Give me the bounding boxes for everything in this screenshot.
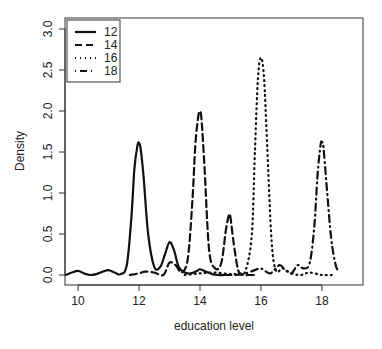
y-tick-label: 3.0 [41,20,55,37]
series-line-12 [66,142,231,275]
x-tick-label: 14 [193,294,207,308]
legend-label: 14 [104,38,118,52]
x-axis-label: education level [174,319,254,333]
y-tick-label: 2.5 [41,61,55,78]
legend-label: 12 [104,25,118,39]
x-tick-label: 12 [132,294,146,308]
series-line-14 [130,111,255,275]
legend-label: 16 [104,51,118,65]
y-tick-label: 2.0 [41,102,55,119]
y-tick-label: 0.0 [41,266,55,283]
x-tick-label: 18 [315,294,329,308]
x-tick-label: 10 [71,294,85,308]
series-line-18 [231,141,339,275]
x-tick-label: 16 [254,294,268,308]
density-chart: 1012141618 0.00.51.01.52.02.53.0 educati… [0,0,382,349]
plot-area [66,58,339,276]
y-tick-label: 1.5 [41,143,55,160]
x-axis: 1012141618 [71,285,329,308]
y-axis: 0.00.51.01.52.02.53.0 [41,20,65,283]
y-tick-label: 1.0 [41,184,55,201]
legend-label: 18 [104,64,118,78]
y-axis-label: Density [13,131,27,171]
legend: 12141618 [67,20,120,82]
y-tick-label: 0.5 [41,225,55,242]
